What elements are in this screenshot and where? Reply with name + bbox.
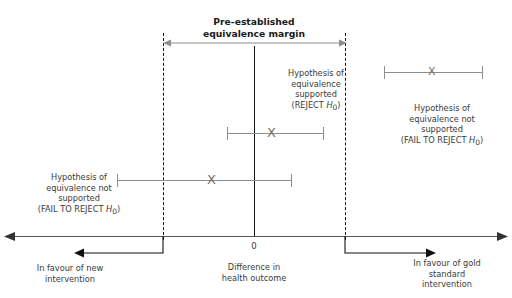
annotation-right-line-2: equivalence not — [378, 114, 506, 125]
annotation-center-line-3: supported — [254, 89, 378, 100]
confidence-interval-right-cap-upper — [482, 66, 483, 79]
annotation-center-line-2: equivalence — [254, 79, 378, 90]
x-axis-left-arrowhead — [4, 231, 20, 242]
margin-span-arrow — [163, 37, 347, 49]
equivalence-margin-line-lower — [163, 33, 164, 240]
point-estimate-marker-left: X — [207, 173, 216, 186]
annotation-right-line-4: (FAIL TO REJECT H0) — [378, 135, 506, 147]
confidence-interval-right-cap-lower — [384, 66, 385, 79]
confidence-interval-center-cap-upper — [323, 127, 324, 140]
direction-label-left-line-1: In favour of new — [8, 263, 132, 274]
annotation-center: Hypothesis of equivalence supported (REJ… — [254, 68, 378, 112]
direction-arrow-left — [74, 236, 168, 260]
annotation-right-line-3: supported — [378, 124, 506, 135]
annotation-right: Hypothesis of equivalence not supported … — [378, 103, 506, 147]
annotation-left-prefix: (FAIL TO REJECT — [38, 204, 106, 214]
direction-label-right: In favour of gold standard intervention — [388, 258, 506, 290]
x-axis-right-arrowhead — [492, 231, 508, 242]
direction-label-right-line-1: In favour of gold — [388, 258, 506, 269]
confidence-interval-center-cap-lower — [227, 127, 228, 140]
direction-arrow-right — [342, 236, 436, 260]
direction-label-left: In favour of new intervention — [8, 263, 132, 284]
annotation-left-line-4: (FAIL TO REJECT H0) — [11, 204, 147, 216]
annotation-center-line-4: (REJECT H0) — [254, 100, 378, 112]
annotation-right-suffix: ) — [480, 135, 483, 145]
zero-tick-label: 0 — [239, 241, 269, 252]
annotation-left-line-3: supported — [11, 193, 147, 204]
diagram-title-line-1: Pre-established — [174, 16, 334, 28]
annotation-center-prefix: (REJECT — [291, 100, 326, 110]
annotation-left-line-1: Hypothesis of — [11, 172, 147, 183]
x-axis-label: Difference in health outcome — [194, 262, 314, 283]
annotation-left-line-2: equivalence not — [11, 183, 147, 194]
direction-label-right-line-3: intervention — [388, 279, 506, 290]
confidence-interval-left-cap-upper — [291, 174, 292, 187]
x-axis-label-line-1: Difference in — [194, 262, 314, 273]
annotation-left-suffix: ) — [117, 204, 120, 214]
point-estimate-marker-right: X — [428, 66, 436, 77]
annotation-center-suffix: ) — [337, 100, 340, 110]
direction-label-right-line-2: standard — [388, 269, 506, 280]
x-axis-label-line-2: health outcome — [194, 273, 314, 284]
annotation-center-line-1: Hypothesis of — [254, 68, 378, 79]
annotation-right-prefix: (FAIL TO REJECT — [401, 135, 469, 145]
annotation-left: Hypothesis of equivalence not supported … — [11, 172, 147, 216]
annotation-right-line-1: Hypothesis of — [378, 103, 506, 114]
direction-label-left-line-2: intervention — [8, 274, 132, 285]
equivalence-trial-diagram: Pre-established equivalence margin X Hyp… — [0, 0, 512, 298]
point-estimate-marker-center: X — [267, 126, 276, 139]
equivalence-margin-line-upper — [345, 33, 346, 240]
